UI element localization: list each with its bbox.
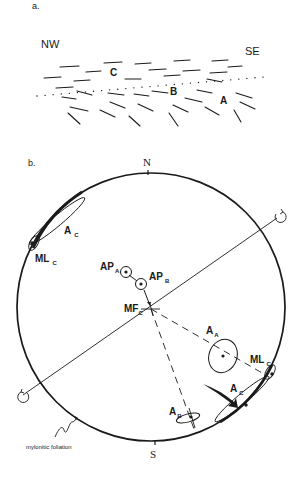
apb-point xyxy=(139,282,142,285)
aa-label: AA xyxy=(206,325,219,338)
ac-lower-point xyxy=(244,403,247,406)
ac-lower-label: AC xyxy=(230,383,244,396)
dotted-shear-line xyxy=(37,77,264,96)
panel-a-label: a. xyxy=(32,1,40,11)
zone-c-label: C xyxy=(110,67,117,78)
rotation-arrow-icon-sw xyxy=(18,389,29,403)
dashed-line-to-aa xyxy=(151,309,264,374)
ac-upper-label: AC xyxy=(64,225,79,238)
apb-label: APB xyxy=(149,271,170,284)
ab-label: AB xyxy=(169,406,182,419)
apa-label: APA xyxy=(100,261,120,274)
direction-nw: NW xyxy=(41,38,60,50)
panel-b-label: b. xyxy=(28,158,36,168)
mlc-upper-point xyxy=(30,241,33,244)
mfc-label: MFC xyxy=(124,303,143,316)
zone-a-label: A xyxy=(220,95,227,106)
mlc-lower-point xyxy=(270,372,273,375)
mlc-upper-label: MLC xyxy=(35,253,57,266)
zone-b-label: B xyxy=(170,86,177,97)
mlc-lower-label: MLC xyxy=(250,354,271,367)
foliation-dashes xyxy=(44,60,255,126)
squiggle-pointer-icon xyxy=(55,418,76,437)
south-label: S xyxy=(150,448,156,460)
apa-point xyxy=(124,270,127,273)
figure-canvas: a. NW SE xyxy=(0,0,305,482)
direction-se: SE xyxy=(245,45,260,57)
apa-apb-arrow xyxy=(129,275,137,281)
ac-upper-point xyxy=(56,210,59,213)
rotation-arrow-icon-ne xyxy=(275,209,286,222)
rotation-axis-line xyxy=(23,218,277,395)
north-label: N xyxy=(143,156,151,168)
aa-point xyxy=(221,354,224,357)
foliation-arc-lower xyxy=(220,365,272,422)
apb-mfc-arrow xyxy=(144,290,149,303)
mylonitic-foliation-label: mylonitic foliation xyxy=(26,444,72,450)
